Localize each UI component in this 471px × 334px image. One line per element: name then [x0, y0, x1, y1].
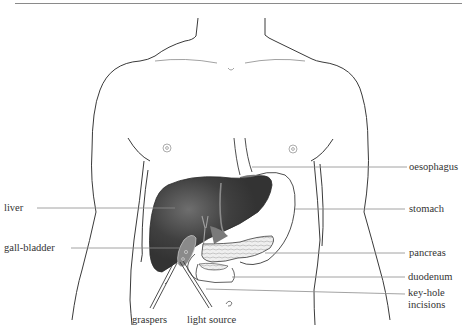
oesophagus [234, 138, 252, 175]
left-shoulder-arm [72, 61, 140, 320]
leader-key-hole-incisions [206, 289, 405, 294]
left-pectoral [128, 138, 150, 161]
nipple-left [163, 144, 171, 152]
label-liver: liver [4, 202, 23, 214]
label-gall-bladder: gall-bladder [4, 242, 55, 254]
neck-right [265, 18, 322, 62]
sternal-notch [228, 68, 234, 70]
right-inner-line [320, 164, 323, 246]
label-graspers: graspers [132, 314, 167, 326]
torso-anatomy-figure [0, 0, 471, 334]
right-pectoral [311, 139, 333, 161]
label-duodenum: duodenum [408, 271, 452, 283]
neck-left [140, 18, 198, 61]
navel [226, 301, 232, 306]
left-clavicle [155, 59, 217, 63]
right-clavicle [245, 59, 305, 63]
right-shoulder-arm [322, 62, 390, 320]
label-key-hole-incisions: key-hole incisions [408, 287, 445, 311]
right-torso-side [314, 161, 320, 325]
label-pancreas: pancreas [409, 247, 446, 259]
label-light-source: light source [187, 314, 236, 326]
label-stomach: stomach [409, 203, 444, 215]
nipple-right [289, 145, 297, 153]
label-oesophagus: oesophagus [409, 161, 458, 173]
